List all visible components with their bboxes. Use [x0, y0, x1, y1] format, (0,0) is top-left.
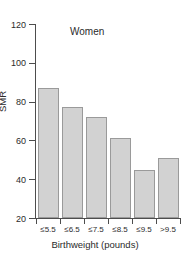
- y-tick-label: 60: [16, 136, 26, 145]
- y-tick-label: 20: [16, 214, 26, 223]
- plot-area: [36, 24, 180, 218]
- bar: [62, 107, 83, 218]
- y-tick-label: 100: [11, 59, 26, 68]
- x-tick: [60, 218, 61, 224]
- y-tick-label: 120: [11, 20, 26, 29]
- y-tick: 40: [29, 179, 35, 180]
- x-tick-label: >9.5: [156, 226, 180, 234]
- y-tick: 80: [29, 102, 35, 103]
- x-tick: [108, 218, 109, 224]
- y-tick-label: 40: [16, 175, 26, 184]
- y-tick: 60: [29, 140, 35, 141]
- chart-figure: Women SMR 20406080100120 ≤5.5≤6.5≤7.5≤8.…: [0, 0, 190, 263]
- x-tick-label: ≤9.5: [132, 226, 156, 234]
- x-tick: [180, 218, 181, 224]
- bar: [158, 158, 179, 218]
- x-tick-label: ≤5.5: [36, 226, 60, 234]
- x-tick: [156, 218, 157, 224]
- bar: [86, 117, 107, 218]
- x-tick: [84, 218, 85, 224]
- y-tick-label: 80: [16, 98, 26, 107]
- y-axis-title: SMR: [0, 91, 8, 112]
- bar: [110, 138, 131, 218]
- y-tick: 100: [29, 63, 35, 64]
- x-tick: [132, 218, 133, 224]
- x-tick-label: ≤8.5: [108, 226, 132, 234]
- x-axis-title: Birthweight (pounds): [0, 240, 190, 250]
- bar: [134, 170, 155, 219]
- y-tick: 120: [29, 24, 35, 25]
- x-tick-label: ≤6.5: [60, 226, 84, 234]
- y-tick: 20: [29, 218, 35, 219]
- x-tick-label: ≤7.5: [84, 226, 108, 234]
- bar: [38, 88, 59, 218]
- x-tick: [36, 218, 37, 224]
